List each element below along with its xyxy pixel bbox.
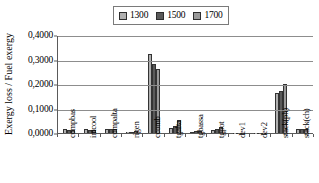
x-label-cell: intcool xyxy=(78,137,99,183)
legend-label: 1300 xyxy=(130,11,148,21)
gridline xyxy=(58,36,313,37)
y-axis-title: Exergy loss / Fuel exergy xyxy=(1,28,17,140)
gridline xyxy=(58,85,313,86)
legend-swatch-icon xyxy=(119,12,127,20)
x-tick-label: compalta xyxy=(110,108,119,138)
x-tick-label: tgalta xyxy=(174,120,183,138)
x-axis-labels: compbasintcoolcompaltarigenccombtgaltatg… xyxy=(57,137,313,183)
y-tick-label: 0,1000 xyxy=(28,105,53,115)
x-tick-label: stack(ch) xyxy=(302,109,311,138)
x-tick-label: ccomb xyxy=(153,116,162,138)
y-tick-label: 0,2000 xyxy=(28,80,53,90)
x-tick-label: rigen xyxy=(132,122,141,138)
x-label-cell: ccomb xyxy=(142,137,163,183)
legend-swatch-icon xyxy=(193,12,201,20)
y-tick-label: 0,4000 xyxy=(28,31,53,41)
legend-entry[interactable]: 1700 xyxy=(193,11,222,21)
x-label-cell: tgbassa xyxy=(185,137,206,183)
x-tick-label: stack(ph) xyxy=(281,108,290,138)
x-label-cell: stack(ph) xyxy=(270,137,291,183)
legend-entry[interactable]: 1300 xyxy=(119,11,148,21)
exergy-loss-bar-chart: 130015001700 Exergy loss / Fuel exergy 0… xyxy=(0,0,319,183)
x-tick-label: intcool xyxy=(89,116,98,138)
y-axis-ticks: 0,40000,30000,20000,10000,0000 xyxy=(18,36,57,134)
x-tick-label: tgpot xyxy=(217,122,226,138)
x-tick-label: compbas xyxy=(68,109,77,138)
chart-legend: 130015001700 xyxy=(113,6,229,25)
gridline xyxy=(58,61,313,62)
x-tick-label: dev1 xyxy=(238,122,247,138)
y-tick-label: 0,3000 xyxy=(28,56,53,66)
legend-entry[interactable]: 1500 xyxy=(156,11,185,21)
x-label-cell: compbas xyxy=(57,137,78,183)
y-axis-title-text: Exergy loss / Fuel exergy xyxy=(4,33,14,135)
gridline xyxy=(58,110,313,111)
x-label-cell: tgalta xyxy=(164,137,185,183)
y-tick-label: 0,0000 xyxy=(28,129,53,139)
legend-label: 1500 xyxy=(167,11,185,21)
x-tick-label: tgbassa xyxy=(196,114,205,138)
x-label-cell: tgpot xyxy=(206,137,227,183)
legend-swatch-icon xyxy=(156,12,164,20)
x-label-cell: dev2 xyxy=(249,137,270,183)
x-tick-label: dev2 xyxy=(260,122,269,138)
x-label-cell: dev1 xyxy=(228,137,249,183)
x-label-cell: compalta xyxy=(100,137,121,183)
x-label-cell: stack(ch) xyxy=(292,137,313,183)
x-label-cell: rigen xyxy=(121,137,142,183)
x-tick-mark xyxy=(313,134,314,137)
legend-label: 1700 xyxy=(204,11,222,21)
